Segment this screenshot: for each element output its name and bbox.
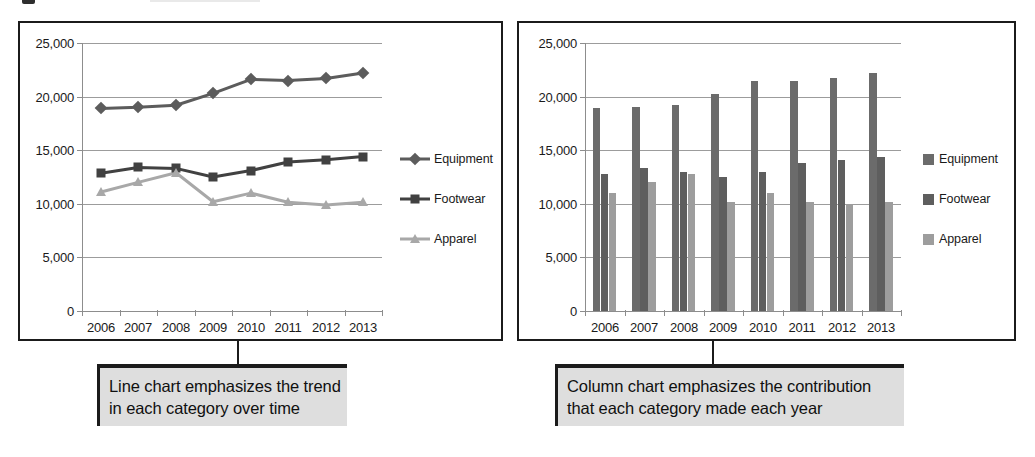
bar-footwear-2011	[798, 163, 805, 311]
x-axis-label: 2006	[87, 320, 115, 335]
legend-color-swatch	[923, 154, 934, 165]
legend-line-swatch	[400, 198, 430, 201]
bar-footwear-2012	[838, 160, 845, 311]
y-axis-label: 5,000	[545, 250, 577, 265]
bar-equipment-2009	[711, 94, 718, 311]
line-series-group	[82, 43, 382, 311]
legend-label: Footwear	[939, 192, 990, 206]
y-axis-label: 10,000	[538, 196, 577, 211]
data-point-marker-apparel	[96, 187, 106, 196]
legend-item-equipment[interactable]: Equipment	[400, 148, 493, 170]
column-callout-line2: that each category made each year	[567, 398, 904, 420]
y-axis-line	[585, 43, 586, 311]
bar-footwear-2007	[640, 168, 647, 311]
x-axis-label: 2010	[749, 320, 777, 335]
y-axis-label: 15,000	[35, 143, 74, 158]
bar-footwear-2008	[680, 172, 687, 311]
data-point-marker-footwear	[322, 155, 331, 164]
legend-label: Apparel	[434, 232, 476, 246]
line-chart-x-axis-labels: 20062007200820092010201120122013	[82, 320, 382, 340]
line-callout-line1: Line chart emphasizes the trend	[109, 376, 347, 398]
page-artifact-smudge	[150, 0, 260, 2]
bar-equipment-2008	[672, 105, 679, 311]
figure-canvas: 05,00010,00015,00020,00025,000 200620072…	[0, 0, 1035, 457]
legend-marker-icon	[411, 195, 420, 204]
bar-footwear-2010	[759, 172, 766, 311]
bar-apparel-2013	[885, 202, 892, 311]
data-point-marker-footwear	[134, 163, 143, 172]
x-axis-tick	[382, 310, 383, 316]
bar-apparel-2007	[648, 182, 655, 311]
legend-line-swatch	[400, 158, 430, 161]
bar-apparel-2010	[767, 193, 774, 311]
bar-apparel-2012	[846, 204, 853, 311]
legend-line-swatch	[400, 238, 430, 241]
legend-label: Footwear	[434, 192, 485, 206]
bar-equipment-2007	[632, 107, 639, 311]
column-chart-y-axis-labels: 05,00010,00015,00020,00025,000	[519, 43, 577, 311]
legend-item-equipment[interactable]: Equipment	[923, 148, 998, 170]
y-axis-label: 20,000	[538, 89, 577, 104]
data-point-marker-apparel	[358, 197, 368, 206]
data-point-marker-footwear	[359, 152, 368, 161]
column-callout-line1: Column chart emphasizes the contribution	[567, 376, 904, 398]
x-axis-tick	[901, 310, 902, 316]
x-axis-label: 2007	[630, 320, 658, 335]
legend-item-footwear[interactable]: Footwear	[400, 188, 493, 210]
data-point-marker-apparel	[133, 177, 143, 186]
x-axis-label: 2012	[828, 320, 856, 335]
legend-color-swatch	[923, 194, 934, 205]
data-point-marker-apparel	[321, 200, 331, 209]
legend-item-footwear[interactable]: Footwear	[923, 188, 998, 210]
column-chart-x-axis-labels: 20062007200820092010201120122013	[585, 320, 901, 340]
bar-footwear-2009	[719, 177, 726, 311]
x-axis-label: 2011	[274, 320, 301, 335]
line-chart-y-axis-labels: 05,00010,00015,00020,00025,000	[20, 43, 74, 311]
x-axis-tick	[625, 310, 626, 316]
line-callout-connector-horizontal	[97, 364, 347, 366]
bar-apparel-2011	[806, 202, 813, 311]
legend-item-apparel[interactable]: Apparel	[400, 228, 493, 250]
line-chart-panel: 05,00010,00015,00020,00025,000 200620072…	[18, 21, 503, 341]
y-axis-label: 15,000	[538, 143, 577, 158]
data-point-marker-apparel	[246, 188, 256, 197]
bar-apparel-2006	[609, 193, 616, 311]
gridline	[585, 97, 901, 98]
column-callout-connector-horizontal	[555, 364, 904, 366]
x-axis-label: 2007	[124, 320, 152, 335]
y-axis-label: 20,000	[35, 89, 74, 104]
legend-item-apparel[interactable]: Apparel	[923, 228, 998, 250]
data-point-marker-apparel	[208, 197, 218, 206]
bar-equipment-2006	[593, 108, 600, 311]
line-chart-plot-area	[82, 43, 382, 311]
column-chart-plot-area	[585, 43, 901, 311]
x-axis-tick	[862, 310, 863, 316]
line-chart-legend: EquipmentFootwearApparel	[400, 148, 493, 250]
bar-equipment-2010	[751, 81, 758, 311]
y-axis-label: 5,000	[42, 250, 74, 265]
x-axis-label: 2011	[788, 320, 815, 335]
x-axis-tick	[743, 310, 744, 316]
line-chart-callout: Line chart emphasizes the trend in each …	[97, 366, 347, 426]
legend-marker-icon	[409, 153, 422, 166]
column-chart-legend: EquipmentFootwearApparel	[923, 148, 998, 250]
legend-marker-icon	[410, 234, 420, 243]
data-point-marker-footwear	[97, 169, 106, 178]
bar-footwear-2006	[601, 174, 608, 311]
bar-equipment-2011	[790, 81, 797, 311]
data-point-marker-apparel	[283, 197, 293, 206]
legend-label: Apparel	[939, 232, 981, 246]
x-axis-label: 2013	[349, 320, 377, 335]
data-point-marker-apparel	[171, 168, 181, 177]
bar-equipment-2012	[830, 78, 837, 311]
bar-apparel-2008	[688, 174, 695, 311]
x-axis-tick	[704, 310, 705, 316]
y-axis-label: 25,000	[538, 36, 577, 51]
x-axis-tick	[585, 310, 586, 316]
data-point-marker-footwear	[284, 157, 293, 166]
legend-label: Equipment	[434, 152, 493, 166]
gridline	[585, 43, 901, 44]
y-axis-label: 10,000	[35, 196, 74, 211]
y-axis-label: 0	[570, 304, 577, 319]
line-callout-line2: in each category over time	[109, 398, 347, 420]
